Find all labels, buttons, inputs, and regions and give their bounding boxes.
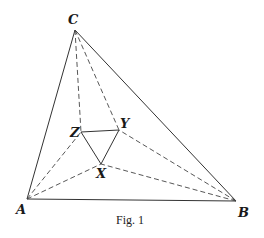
label-b: B bbox=[237, 205, 249, 220]
side-zx bbox=[81, 132, 101, 164]
cevian-ax bbox=[27, 164, 101, 199]
label-y: Y bbox=[120, 116, 131, 131]
label-x: X bbox=[95, 166, 107, 181]
side-xy bbox=[101, 130, 119, 164]
cevian-az bbox=[27, 132, 81, 199]
label-c: C bbox=[68, 12, 79, 27]
cevian-bx bbox=[101, 164, 236, 201]
label-z: Z bbox=[69, 125, 80, 140]
side-yz bbox=[81, 130, 119, 132]
cevian-cy bbox=[75, 30, 119, 130]
figure-svg: C A B Z Y X Fig. 1 bbox=[0, 0, 264, 238]
figure-caption: Fig. 1 bbox=[116, 213, 144, 227]
geometry-figure: C A B Z Y X Fig. 1 bbox=[0, 0, 264, 238]
side-ca bbox=[27, 30, 75, 199]
side-ab bbox=[27, 199, 236, 201]
cevian-by bbox=[119, 130, 236, 201]
label-a: A bbox=[14, 202, 26, 217]
cevian-cz bbox=[75, 30, 81, 132]
